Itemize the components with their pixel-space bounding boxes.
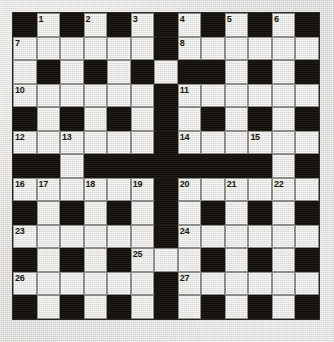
- grid-open-cell[interactable]: [84, 84, 108, 108]
- grid-open-cell[interactable]: 14: [178, 131, 202, 155]
- grid-open-cell[interactable]: [295, 225, 319, 249]
- grid-open-cell[interactable]: [225, 84, 249, 108]
- grid-open-cell[interactable]: [225, 295, 249, 319]
- grid-open-cell[interactable]: 18: [84, 178, 108, 202]
- grid-open-cell[interactable]: [272, 295, 296, 319]
- grid-open-cell[interactable]: [201, 84, 225, 108]
- grid-open-cell[interactable]: [248, 225, 272, 249]
- grid-open-cell[interactable]: [13, 60, 37, 84]
- grid-open-cell[interactable]: [107, 37, 131, 61]
- grid-open-cell[interactable]: 16: [13, 178, 37, 202]
- grid-open-cell[interactable]: [225, 60, 249, 84]
- grid-open-cell[interactable]: [107, 84, 131, 108]
- grid-open-cell[interactable]: [178, 248, 202, 272]
- grid-open-cell[interactable]: 19: [131, 178, 155, 202]
- grid-open-cell[interactable]: [295, 37, 319, 61]
- grid-open-cell[interactable]: [272, 131, 296, 155]
- grid-open-cell[interactable]: [37, 84, 61, 108]
- grid-open-cell[interactable]: [248, 37, 272, 61]
- grid-open-cell[interactable]: [131, 225, 155, 249]
- grid-open-cell[interactable]: [107, 131, 131, 155]
- grid-open-cell[interactable]: [84, 131, 108, 155]
- grid-open-cell[interactable]: [225, 225, 249, 249]
- grid-open-cell[interactable]: [107, 225, 131, 249]
- grid-open-cell[interactable]: [84, 225, 108, 249]
- grid-open-cell[interactable]: [248, 84, 272, 108]
- grid-open-cell[interactable]: [178, 201, 202, 225]
- grid-open-cell[interactable]: [60, 272, 84, 296]
- grid-open-cell[interactable]: [154, 248, 178, 272]
- grid-open-cell[interactable]: [201, 272, 225, 296]
- grid-open-cell[interactable]: 1: [37, 13, 61, 37]
- grid-open-cell[interactable]: [201, 178, 225, 202]
- grid-open-cell[interactable]: [131, 272, 155, 296]
- grid-open-cell[interactable]: [225, 107, 249, 131]
- grid-open-cell[interactable]: [225, 37, 249, 61]
- grid-open-cell[interactable]: [248, 272, 272, 296]
- grid-open-cell[interactable]: 10: [13, 84, 37, 108]
- grid-open-cell[interactable]: 27: [178, 272, 202, 296]
- grid-open-cell[interactable]: [272, 154, 296, 178]
- grid-open-cell[interactable]: 21: [225, 178, 249, 202]
- grid-open-cell[interactable]: 25: [131, 248, 155, 272]
- grid-open-cell[interactable]: [131, 131, 155, 155]
- crossword-grid[interactable]: 1234567810111213141516171819202122232425…: [13, 13, 319, 319]
- grid-open-cell[interactable]: [295, 178, 319, 202]
- grid-open-cell[interactable]: [272, 84, 296, 108]
- grid-open-cell[interactable]: [225, 272, 249, 296]
- grid-open-cell[interactable]: [225, 201, 249, 225]
- grid-open-cell[interactable]: [201, 131, 225, 155]
- grid-open-cell[interactable]: [131, 201, 155, 225]
- grid-open-cell[interactable]: [60, 84, 84, 108]
- grid-open-cell[interactable]: 8: [178, 37, 202, 61]
- grid-open-cell[interactable]: [107, 60, 131, 84]
- grid-open-cell[interactable]: [84, 272, 108, 296]
- grid-open-cell[interactable]: [295, 131, 319, 155]
- grid-open-cell[interactable]: 24: [178, 225, 202, 249]
- grid-open-cell[interactable]: [107, 178, 131, 202]
- grid-open-cell[interactable]: [84, 201, 108, 225]
- grid-open-cell[interactable]: [272, 272, 296, 296]
- grid-open-cell[interactable]: [225, 131, 249, 155]
- grid-open-cell[interactable]: [131, 84, 155, 108]
- grid-open-cell[interactable]: [295, 272, 319, 296]
- grid-open-cell[interactable]: 11: [178, 84, 202, 108]
- grid-open-cell[interactable]: [37, 295, 61, 319]
- grid-open-cell[interactable]: 4: [178, 13, 202, 37]
- grid-open-cell[interactable]: [272, 37, 296, 61]
- grid-open-cell[interactable]: 5: [225, 13, 249, 37]
- grid-open-cell[interactable]: [272, 60, 296, 84]
- grid-open-cell[interactable]: [107, 272, 131, 296]
- grid-open-cell[interactable]: [154, 60, 178, 84]
- grid-open-cell[interactable]: [201, 225, 225, 249]
- grid-open-cell[interactable]: 12: [13, 131, 37, 155]
- grid-open-cell[interactable]: [131, 37, 155, 61]
- grid-open-cell[interactable]: [37, 37, 61, 61]
- grid-open-cell[interactable]: [272, 248, 296, 272]
- grid-open-cell[interactable]: [272, 201, 296, 225]
- grid-open-cell[interactable]: [201, 37, 225, 61]
- grid-open-cell[interactable]: 13: [60, 131, 84, 155]
- grid-open-cell[interactable]: [37, 248, 61, 272]
- grid-open-cell[interactable]: 22: [272, 178, 296, 202]
- grid-open-cell[interactable]: [131, 295, 155, 319]
- grid-open-cell[interactable]: [60, 225, 84, 249]
- grid-open-cell[interactable]: [178, 295, 202, 319]
- grid-open-cell[interactable]: [178, 107, 202, 131]
- grid-open-cell[interactable]: [60, 154, 84, 178]
- grid-open-cell[interactable]: [37, 225, 61, 249]
- grid-open-cell[interactable]: [37, 272, 61, 296]
- grid-open-cell[interactable]: [37, 201, 61, 225]
- grid-open-cell[interactable]: [60, 178, 84, 202]
- grid-open-cell[interactable]: [272, 107, 296, 131]
- grid-open-cell[interactable]: 26: [13, 272, 37, 296]
- grid-open-cell[interactable]: [84, 107, 108, 131]
- grid-open-cell[interactable]: 3: [131, 13, 155, 37]
- grid-open-cell[interactable]: [248, 178, 272, 202]
- grid-open-cell[interactable]: 2: [84, 13, 108, 37]
- grid-open-cell[interactable]: 20: [178, 178, 202, 202]
- grid-open-cell[interactable]: [295, 84, 319, 108]
- grid-open-cell[interactable]: [225, 248, 249, 272]
- grid-open-cell[interactable]: 6: [272, 13, 296, 37]
- grid-open-cell[interactable]: 7: [13, 37, 37, 61]
